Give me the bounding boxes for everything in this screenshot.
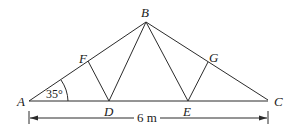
- point-label-F: F: [78, 51, 88, 66]
- member-BC: [146, 22, 268, 100]
- angle-label: 35°: [46, 87, 63, 101]
- point-label-G: G: [209, 50, 219, 65]
- member-EG: [188, 62, 208, 101]
- point-label-D: D: [103, 104, 114, 119]
- member-FD: [88, 61, 109, 101]
- dimension-label: 6 m: [137, 110, 157, 125]
- arrowhead-left-icon: [30, 116, 38, 121]
- truss-diagram: A B C D E F G 35° 6 m: [0, 0, 294, 131]
- arrowhead-right-icon: [259, 116, 267, 121]
- point-label-E: E: [182, 104, 191, 119]
- member-BE: [146, 22, 188, 101]
- point-label-B: B: [141, 5, 149, 20]
- point-label-A: A: [16, 94, 25, 109]
- member-DB: [109, 22, 146, 101]
- point-label-C: C: [274, 94, 283, 109]
